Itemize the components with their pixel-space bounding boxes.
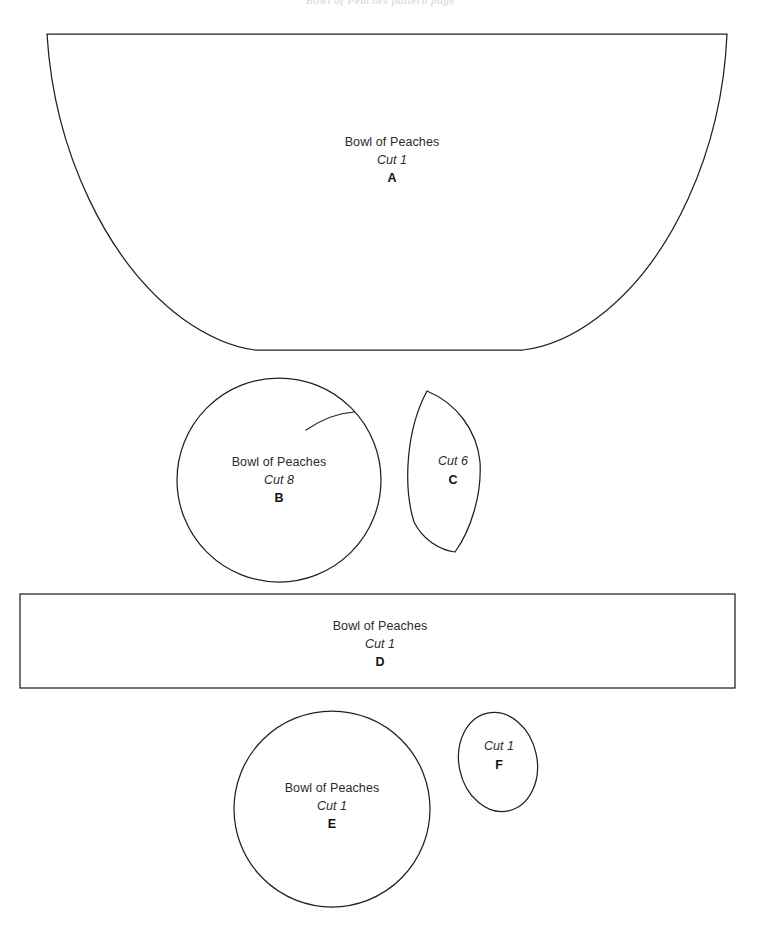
piece-e-letter: E [277, 818, 387, 831]
piece-f-cut: Cut 1 [478, 740, 520, 753]
piece-a-outline [47, 34, 727, 350]
piece-e-label: Bowl of Peaches Cut 1 E [277, 782, 387, 831]
piece-a-letter: A [342, 172, 442, 185]
pattern-sheet: Bowl of Peaches pattern page Bowl of Pea… [0, 0, 761, 947]
piece-b-cut: Cut 8 [219, 474, 339, 487]
piece-f-label: Cut 1 F [478, 740, 520, 771]
piece-c-label: Cut 6 C [424, 455, 482, 486]
piece-a-label: Bowl of Peaches Cut 1 A [342, 136, 442, 185]
piece-a-name: Bowl of Peaches [342, 136, 442, 149]
piece-d-letter: D [330, 656, 430, 669]
piece-e-cut: Cut 1 [277, 800, 387, 813]
piece-b-name: Bowl of Peaches [219, 456, 339, 469]
piece-d-cut: Cut 1 [330, 638, 430, 651]
piece-b-label: Bowl of Peaches Cut 8 B [219, 456, 339, 505]
piece-d-label: Bowl of Peaches Cut 1 D [330, 620, 430, 669]
piece-e-name: Bowl of Peaches [277, 782, 387, 795]
piece-b-letter: B [219, 492, 339, 505]
piece-c-letter: C [424, 474, 482, 487]
piece-d-name: Bowl of Peaches [330, 620, 430, 633]
piece-a-cut: Cut 1 [342, 154, 442, 167]
piece-f-letter: F [478, 759, 520, 772]
piece-c-cut: Cut 6 [424, 455, 482, 468]
